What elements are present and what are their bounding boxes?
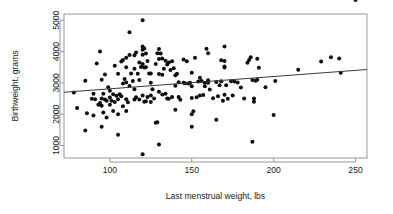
- data-point: [134, 51, 138, 55]
- data-point: [190, 71, 194, 75]
- data-point: [124, 56, 128, 60]
- data-point: [108, 103, 112, 107]
- data-point: [119, 94, 123, 98]
- data-point: [257, 66, 261, 70]
- y-axis-title: Birthweight, grams: [10, 50, 20, 121]
- data-point: [149, 100, 153, 104]
- data-point: [242, 97, 246, 101]
- y-tick-label: 2000: [51, 104, 61, 123]
- data-point: [75, 106, 79, 110]
- y-tick-label: 3000: [51, 73, 61, 92]
- data-point: [178, 98, 182, 102]
- data-point: [226, 97, 230, 101]
- data-point: [160, 73, 164, 77]
- data-point: [193, 56, 197, 60]
- data-point: [113, 64, 117, 68]
- data-point: [103, 72, 107, 76]
- data-point: [150, 87, 154, 91]
- data-point: [116, 72, 120, 76]
- data-point: [216, 94, 220, 98]
- data-point: [223, 59, 227, 63]
- data-point: [170, 95, 174, 99]
- data-point: [142, 46, 146, 50]
- data-point: [132, 87, 136, 91]
- data-point: [252, 97, 256, 101]
- data-point: [272, 113, 276, 117]
- data-point: [141, 62, 145, 66]
- data-point: [105, 116, 109, 120]
- data-point: [337, 56, 341, 60]
- data-point: [204, 47, 208, 51]
- data-point: [154, 62, 158, 66]
- data-point: [141, 18, 145, 22]
- data-point: [221, 99, 225, 103]
- data-point: [223, 66, 227, 70]
- data-point: [190, 96, 194, 100]
- data-point: [124, 81, 128, 85]
- data-point: [93, 97, 97, 101]
- data-point: [173, 108, 177, 112]
- data-point: [91, 113, 95, 117]
- data-point: [129, 71, 133, 75]
- data-point: [152, 97, 156, 101]
- data-point: [116, 133, 120, 137]
- data-point: [83, 79, 87, 83]
- data-point: [95, 61, 99, 65]
- data-point: [191, 109, 195, 113]
- data-point: [98, 50, 102, 54]
- data-point: [175, 72, 179, 76]
- data-point: [172, 66, 176, 70]
- data-point: [214, 118, 218, 122]
- data-point: [128, 53, 132, 57]
- data-point: [113, 100, 117, 104]
- data-point: [224, 83, 228, 87]
- data-point: [144, 51, 148, 55]
- chart-canvas: 10002000300040005000 100150200250 Last m…: [0, 0, 393, 214]
- data-point: [105, 99, 109, 103]
- data-point: [137, 78, 141, 82]
- data-point: [144, 99, 148, 103]
- data-point: [100, 78, 104, 82]
- data-point: [146, 59, 150, 63]
- data-point: [223, 45, 227, 49]
- data-point: [141, 93, 145, 97]
- data-point: [231, 93, 235, 97]
- data-point: [157, 143, 161, 147]
- data-point: [211, 96, 215, 100]
- data-point: [208, 87, 212, 91]
- y-tick-label: 5000: [51, 10, 61, 29]
- data-point: [250, 140, 254, 144]
- x-tick-label: 150: [185, 165, 200, 175]
- data-point: [124, 65, 128, 69]
- data-point: [160, 56, 164, 60]
- data-point: [157, 47, 161, 51]
- y-tick-label: 1000: [51, 136, 61, 155]
- data-point: [121, 104, 125, 108]
- data-point: [223, 93, 227, 97]
- data-point: [124, 109, 128, 113]
- data-point: [149, 71, 153, 75]
- data-point: [134, 95, 138, 99]
- data-point: [132, 67, 136, 71]
- data-point: [329, 55, 333, 59]
- data-point: [319, 60, 323, 64]
- data-point: [218, 83, 222, 87]
- data-point: [185, 59, 189, 63]
- data-point: [126, 100, 130, 104]
- data-point: [121, 58, 125, 62]
- data-point: [116, 112, 120, 116]
- data-point: [149, 93, 153, 97]
- data-point: [164, 92, 168, 96]
- x-axis-title: Last menstrual weight, lbs: [166, 191, 265, 201]
- x-tick-label: 250: [348, 165, 363, 175]
- data-point: [137, 97, 141, 101]
- data-point: [155, 120, 159, 124]
- data-point: [149, 81, 153, 85]
- data-point: [206, 51, 210, 55]
- x-tick-label: 100: [103, 165, 118, 175]
- data-point: [123, 77, 127, 81]
- data-point: [100, 125, 104, 129]
- data-point: [273, 79, 277, 83]
- data-point: [136, 72, 140, 76]
- data-point: [190, 84, 194, 88]
